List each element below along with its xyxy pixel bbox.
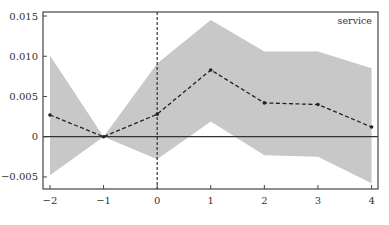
x-tick-label: 2 (261, 195, 267, 206)
x-tick-label: 1 (208, 195, 214, 206)
x-tick-label: 3 (315, 195, 321, 206)
y-tick-label: 0.005 (9, 91, 38, 102)
data-point-marker (316, 103, 320, 107)
data-point-marker (155, 112, 159, 116)
y-axis-ticks: 0.0150.0100.0050−0.005 (1, 11, 47, 183)
data-point-marker (102, 135, 106, 139)
event-study-chart: −2−101234 0.0150.0100.0050−0.005 service (0, 0, 389, 225)
ci-band-polygon (50, 20, 372, 183)
y-tick-label: 0.015 (9, 11, 38, 22)
x-tick-label: −2 (43, 195, 58, 206)
x-axis-ticks: −2−101234 (43, 185, 375, 206)
data-point-marker (263, 101, 267, 105)
data-point-marker (209, 68, 213, 72)
x-tick-label: 0 (154, 195, 160, 206)
confidence-band (50, 20, 372, 183)
data-point-marker (370, 125, 374, 129)
data-point-marker (48, 113, 52, 117)
y-tick-label: 0.010 (9, 51, 38, 62)
y-tick-label: 0 (32, 131, 38, 142)
y-tick-label: −0.005 (1, 171, 38, 182)
x-tick-label: 4 (368, 195, 374, 206)
x-tick-label: −1 (96, 195, 111, 206)
panel-label: service (338, 15, 373, 26)
